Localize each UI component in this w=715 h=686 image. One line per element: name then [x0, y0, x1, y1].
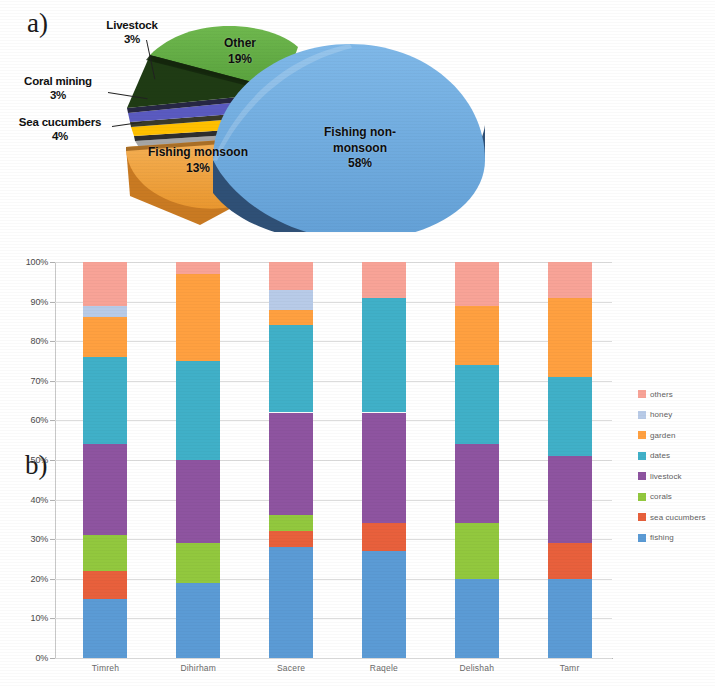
bar-segment-timreh-livestock	[83, 444, 127, 535]
stacked-bar-tamr	[548, 262, 592, 658]
bar-segment-dihirham-livestock	[176, 460, 220, 543]
pie-label-coral-mining-value: 3%	[50, 89, 66, 101]
legend-item-fishing: fishing	[638, 528, 706, 549]
bar-segment-timreh-fishing	[83, 599, 127, 658]
panel-b-stacked-bar-chart: b) 0%10%20%30%40%50%60%70%80%90%100% Tim…	[0, 232, 715, 686]
bar-segment-tamr-dates	[548, 377, 592, 456]
legend-swatch-garden	[638, 431, 646, 439]
bar-segment-dihirham-fishing	[176, 583, 220, 658]
gridline-0	[55, 658, 612, 659]
y-tick-label-70: 70%	[31, 376, 48, 386]
bar-segment-tamr-others	[548, 262, 592, 298]
bar-segment-raqele-others	[362, 262, 406, 298]
gridline-20	[55, 579, 612, 580]
legend-item-garden: garden	[638, 425, 706, 446]
gridline-10	[55, 618, 612, 619]
bar-segment-delishah-others	[455, 262, 499, 306]
bar-segment-timreh-dates	[83, 357, 127, 444]
gridline-60	[55, 420, 612, 421]
y-tick-label-40: 40%	[31, 495, 48, 505]
legend-item-livestock: livestock	[638, 466, 706, 487]
pie-label-fishing-non-monsoon: Fishing non- monsoon 58%	[305, 125, 415, 172]
pie-label-sea-cucumbers-value: 4%	[52, 130, 68, 142]
y-tick-80	[50, 341, 55, 342]
bar-segment-dihirham-garden	[176, 274, 220, 361]
bar-segment-sacere-corals	[269, 515, 313, 531]
y-tick-label-80: 80%	[31, 336, 48, 346]
bar-segment-delishah-corals	[455, 523, 499, 578]
stacked-bar-dihirham	[176, 262, 220, 658]
bar-segment-sacere-livestock	[269, 413, 313, 516]
legend-swatch-dates	[638, 452, 646, 460]
gridline-90	[55, 302, 612, 303]
legend-swatch-fishing	[638, 534, 646, 542]
y-tick-100	[50, 262, 55, 263]
pie-label-sea-cucumbers: Sea cucumbers 4%	[5, 115, 115, 144]
bar-segment-timreh-garden	[83, 317, 127, 357]
y-tick-20	[50, 579, 55, 580]
bar-segment-timreh-sea-cucumbers	[83, 571, 127, 599]
pie-label-other-value: 19%	[228, 52, 252, 66]
bar-segment-delishah-livestock	[455, 444, 499, 523]
bar-segment-sacere-others	[269, 262, 313, 290]
legend-item-sea-cucumbers: sea cucumbers	[638, 507, 706, 528]
legend-label-fishing: fishing	[650, 533, 674, 542]
bar-segment-sacere-sea-cucumbers	[269, 531, 313, 547]
bar-segment-raqele-fishing	[362, 551, 406, 658]
gridline-100	[55, 262, 612, 263]
legend-item-others: others	[638, 384, 706, 405]
legend-swatch-honey	[638, 411, 646, 419]
bar-segment-delishah-garden	[455, 306, 499, 365]
y-tick-90	[50, 302, 55, 303]
y-tick-label-50: 50%	[31, 455, 48, 465]
y-tick-30	[50, 539, 55, 540]
gridline-30	[55, 539, 612, 540]
stacked-bar-timreh	[83, 262, 127, 658]
bar-segment-timreh-corals	[83, 535, 127, 571]
pie-label-fishing-non-monsoon-name-1: Fishing non-	[324, 125, 396, 139]
bar-segment-dihirham-dates	[176, 361, 220, 460]
gridline-40	[55, 500, 612, 501]
y-tick-70	[50, 381, 55, 382]
legend-label-honey: honey	[650, 410, 672, 419]
bar-segment-sacere-dates	[269, 325, 313, 412]
bar-segment-tamr-garden	[548, 298, 592, 377]
legend-item-corals: corals	[638, 487, 706, 508]
bar-segment-delishah-dates	[455, 365, 499, 444]
bar-segment-sacere-honey	[269, 290, 313, 310]
gridline-80	[55, 341, 612, 342]
y-tick-label-30: 30%	[31, 534, 48, 544]
chart-legend: othershoneygardendateslivestockcoralssea…	[638, 384, 706, 548]
legend-label-sea-cucumbers: sea cucumbers	[650, 513, 706, 522]
y-tick-50	[50, 460, 55, 461]
bar-segment-delishah-fishing	[455, 579, 499, 658]
legend-label-corals: corals	[650, 492, 672, 501]
pie-label-livestock-name: Livestock	[106, 19, 157, 31]
pie-label-coral-mining: Coral mining 3%	[8, 74, 108, 103]
legend-swatch-corals	[638, 493, 646, 501]
bar-segment-dihirham-others	[176, 262, 220, 274]
legend-swatch-others	[638, 390, 646, 398]
legend-item-honey: honey	[638, 405, 706, 426]
legend-item-dates: dates	[638, 446, 706, 467]
bar-segment-raqele-sea-cucumbers	[362, 523, 406, 551]
plot-area: 0%10%20%30%40%50%60%70%80%90%100% Timreh…	[55, 262, 612, 658]
pie-label-livestock: Livestock 3%	[90, 18, 174, 47]
pie-label-coral-mining-name: Coral mining	[24, 75, 92, 87]
y-tick-10	[50, 618, 55, 619]
legend-label-livestock: livestock	[650, 472, 682, 481]
pie-label-fishing-monsoon-value: 13%	[186, 161, 210, 175]
gridline-70	[55, 381, 612, 382]
bar-segment-dihirham-corals	[176, 543, 220, 583]
bar-segment-timreh-honey	[83, 306, 127, 318]
x-tick-label-tamr: Tamr	[510, 663, 630, 673]
pie-label-fishing-non-monsoon-name-2: monsoon	[333, 141, 387, 155]
y-tick-60	[50, 420, 55, 421]
stacked-bar-sacere	[269, 262, 313, 658]
pie-label-sea-cucumbers-name: Sea cucumbers	[19, 116, 101, 128]
y-tick-label-90: 90%	[31, 297, 48, 307]
pie-label-fishing-monsoon: Fishing monsoon 13%	[133, 145, 263, 176]
pie-label-fishing-monsoon-name: Fishing monsoon	[148, 145, 248, 159]
pie-label-other-name: Other	[224, 36, 256, 50]
legend-swatch-sea-cucumbers	[638, 513, 646, 521]
